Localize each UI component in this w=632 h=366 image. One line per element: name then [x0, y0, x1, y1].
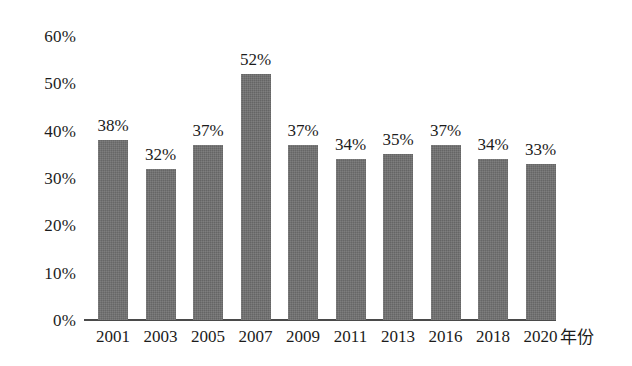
bar — [146, 169, 176, 320]
bar-group: 35% — [383, 36, 413, 320]
bar-group: 37% — [193, 36, 223, 320]
bar-group: 52% — [241, 36, 271, 320]
bar — [478, 159, 508, 320]
y-axis: 0%10%20%30%40%50%60% — [18, 0, 76, 366]
bar — [336, 159, 366, 320]
bar — [193, 145, 223, 320]
bar-value-label: 33% — [514, 141, 568, 158]
bar-value-label: 37% — [181, 122, 235, 139]
y-axis-tick-label: 20% — [18, 217, 76, 234]
bar-group: 37% — [288, 36, 318, 320]
bar — [241, 74, 271, 320]
plot-area: 38%32%37%52%37%34%35%37%34%33% — [86, 36, 556, 320]
y-axis-tick-label: 0% — [18, 312, 76, 329]
y-axis-tick-label: 40% — [18, 123, 76, 140]
bar-group: 34% — [478, 36, 508, 320]
bar-group: 32% — [146, 36, 176, 320]
bar-chart: 0%10%20%30%40%50%60% 38%32%37%52%37%34%3… — [0, 0, 632, 366]
bar — [383, 154, 413, 320]
x-axis-title: 年份 — [560, 325, 594, 349]
y-axis-tick-label: 30% — [18, 170, 76, 187]
bar-value-label: 34% — [324, 136, 378, 153]
bar-value-label: 38% — [86, 117, 140, 134]
bar-group: 38% — [98, 36, 128, 320]
bar — [288, 145, 318, 320]
bar-value-label: 37% — [276, 122, 330, 139]
bar — [431, 145, 461, 320]
bar-value-label: 52% — [229, 51, 283, 68]
bar-value-label: 32% — [134, 146, 188, 163]
x-axis-tick-labels: 2001200320052007200920112013201620182020 — [86, 325, 556, 355]
y-axis-tick-label: 50% — [18, 75, 76, 92]
bar-value-label: 35% — [371, 131, 425, 148]
bar — [526, 164, 556, 320]
bar-value-label: 37% — [419, 122, 473, 139]
bar-value-label: 34% — [466, 136, 520, 153]
bar — [98, 140, 128, 320]
bar-group: 33% — [526, 36, 556, 320]
bar-group: 34% — [336, 36, 366, 320]
bar-group: 37% — [431, 36, 461, 320]
y-axis-tick-label: 10% — [18, 265, 76, 282]
y-axis-tick-label: 60% — [18, 28, 76, 45]
